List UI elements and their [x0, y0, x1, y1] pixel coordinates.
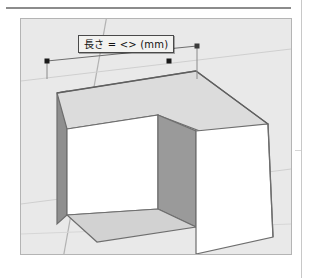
model-canvas	[21, 19, 291, 254]
measure-endpoint-left	[45, 59, 50, 64]
notch-right-face	[158, 115, 196, 227]
document-page: 長さ = <> (mm)	[0, 0, 311, 278]
header-divider-rule	[6, 7, 291, 9]
front-right-face	[196, 124, 273, 254]
measurement-tooltip[interactable]: 長さ = <> (mm)	[78, 35, 174, 53]
notch-left-face	[67, 115, 158, 215]
page-edge-line	[301, 0, 302, 278]
measure-endpoint-right	[195, 44, 200, 49]
measure-cursor-point	[167, 59, 172, 64]
horizon-line-upper	[21, 49, 291, 81]
measurement-tooltip-label: 長さ = <> (mm)	[84, 39, 168, 50]
page-edge-tick	[295, 150, 301, 151]
3d-model-viewport[interactable]	[20, 18, 292, 255]
